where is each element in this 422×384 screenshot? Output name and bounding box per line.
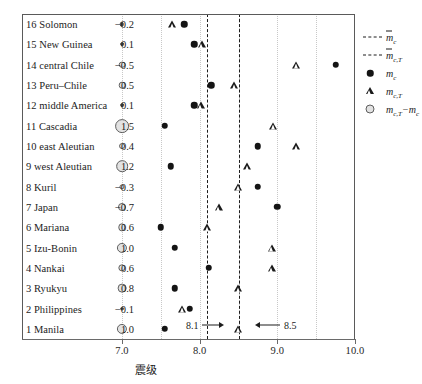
row-diff-value: 0.6 [104, 222, 134, 233]
triangle-mct-marker [293, 61, 301, 68]
legend-row: mc,T−mc [363, 100, 421, 118]
legend-label: mc,T [386, 86, 402, 97]
row-label: 10 east Aleutian [26, 141, 94, 152]
row-diff-value: −0.2 [104, 19, 134, 30]
annotation-8-5-arrow [260, 325, 280, 326]
circle-mc-marker [161, 326, 168, 333]
triangle-mct-marker [198, 41, 206, 48]
row-label: 2 Philippines [26, 303, 82, 314]
triangle-mct-marker [168, 21, 176, 28]
row-diff-value: −0.3 [104, 181, 134, 192]
circle-mc-marker [191, 41, 198, 48]
row-diff-value: 1.2 [104, 161, 134, 172]
annotation-8-5-label: 8.5 [284, 320, 297, 331]
x-tick [200, 339, 201, 344]
triangle-mct-marker [235, 325, 243, 332]
row-label: 14 central Chile [26, 59, 94, 70]
x-tick-label: 10.0 [346, 345, 365, 356]
open-circle-icon [366, 105, 375, 114]
legend-label: mc [386, 32, 396, 43]
triangle-mct-marker [244, 163, 252, 170]
row-label: 13 Peru–Chile [26, 80, 87, 91]
triangle-mct-marker [269, 122, 277, 129]
row-diff-value: 0.1 [104, 100, 134, 111]
legend-row: mc,T [363, 82, 421, 100]
row-diff-value: 0.4 [104, 141, 134, 152]
row-diff-value: 0.5 [104, 80, 134, 91]
legend-label: mc [386, 68, 396, 79]
legend-row: mc [363, 28, 421, 46]
legend-row: mc [363, 64, 421, 82]
circle-mc-marker [255, 143, 262, 150]
triangle-mct-marker [197, 102, 205, 109]
triangle-mct-marker [268, 244, 276, 251]
triangle-mct-marker [235, 285, 243, 292]
circle-mc-marker [186, 305, 193, 312]
x-tick [277, 339, 278, 344]
circle-mc-marker [181, 21, 188, 28]
x-tick [122, 339, 123, 344]
row-label: 9 west Aleutian [26, 161, 92, 172]
x-tick [355, 339, 356, 344]
circle-mc-marker [161, 122, 168, 129]
triangle-mct-marker [215, 203, 223, 210]
row-diff-value: −0.5 [104, 59, 134, 70]
row-diff-value: 1.0 [104, 323, 134, 334]
row-label: 3 Ryukyu [26, 283, 67, 294]
x-tick-label: 8.0 [193, 345, 206, 356]
row-diff-value: 0.8 [104, 283, 134, 294]
circle-mc-marker [255, 183, 262, 190]
dashed-line-icon [363, 37, 382, 38]
row-diff-value: 1.5 [104, 120, 134, 131]
row-diff-value: 0.1 [104, 39, 134, 50]
top-margin [0, 0, 422, 8]
triangle-mct-marker [293, 143, 301, 150]
annotation-8-1-arrow [202, 325, 220, 326]
row-diff-value: −0.7 [104, 201, 134, 212]
row-label: 1 Manila [26, 323, 64, 334]
x-axis-line [22, 339, 355, 340]
circle-mc-marker [168, 163, 175, 170]
row-label: 11 Cascadia [26, 120, 77, 131]
triangle-mct-marker [203, 224, 211, 231]
x-tick-label: 7.0 [115, 345, 128, 356]
row-label: 8 Kuril [26, 181, 56, 192]
x-axis-title: 震级 [0, 361, 422, 377]
row-label: 7 Japan [26, 201, 58, 212]
filled-circle-icon [367, 70, 374, 77]
row-label: 16 Solomon [26, 19, 78, 30]
x-tick-label: 9.0 [271, 345, 284, 356]
triangle-mct-marker [235, 183, 243, 190]
legend-label: mc,T−mc [386, 104, 419, 115]
triangle-mct-marker [231, 82, 239, 89]
circle-mc-marker [158, 224, 165, 231]
row-diff-value: 0.6 [104, 262, 134, 273]
annotation-8-1-label: 8.1 [186, 320, 199, 331]
circle-mc-marker [274, 204, 281, 211]
annotation-8-1-arrowhead [219, 322, 224, 328]
circle-mc-marker [208, 82, 215, 89]
row-label: 6 Mariana [26, 222, 69, 233]
row-label: 5 Izu-Bonin [26, 242, 77, 253]
circle-mc-marker [191, 102, 198, 109]
row-diff-value: 1.0 [104, 242, 134, 253]
triangle-mct-marker [268, 264, 276, 271]
row-label: 15 New Guinea [26, 39, 93, 50]
x-axis-title-text: 震级 [135, 361, 157, 377]
circle-mc-marker [332, 62, 339, 69]
figure-container: 16 Solomon−0.215 New Guinea0.114 central… [0, 0, 422, 384]
row-label: 12 middle America [26, 100, 107, 111]
row-label: 4 Nankai [26, 262, 65, 273]
dashed-line-icon [363, 55, 382, 56]
circle-mc-marker [172, 244, 179, 251]
circle-mc-marker [172, 285, 179, 292]
legend: mcmc,Tmcmc,Tmc,T−mc [363, 28, 421, 118]
legend-row: mc,T [363, 46, 421, 64]
row-diff-value: −0.1 [104, 303, 134, 314]
circle-mc-marker [206, 265, 213, 272]
legend-label: mc,T [386, 50, 402, 61]
